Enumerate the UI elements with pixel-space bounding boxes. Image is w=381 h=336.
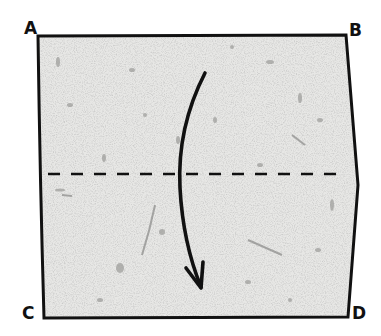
origami-diagram: A B C D bbox=[0, 0, 381, 336]
corner-label-c: C bbox=[22, 305, 34, 322]
corner-label-d: D bbox=[352, 305, 366, 322]
corner-label-b: B bbox=[349, 22, 362, 39]
paper-svg bbox=[0, 0, 381, 336]
corner-label-a: A bbox=[24, 20, 37, 37]
